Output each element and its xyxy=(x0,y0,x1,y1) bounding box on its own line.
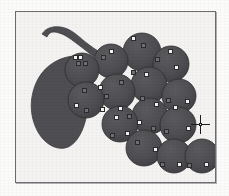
node-handle[interactable] xyxy=(177,162,182,167)
node-handle[interactable] xyxy=(160,162,165,167)
node-handle[interactable] xyxy=(119,80,124,85)
node-handle[interactable] xyxy=(125,131,130,136)
node-handle[interactable] xyxy=(98,85,103,90)
node-handle[interactable] xyxy=(144,72,149,77)
node-handle[interactable] xyxy=(155,57,160,62)
node-handle[interactable] xyxy=(164,129,169,134)
node-handle[interactable] xyxy=(185,99,190,104)
grape-bunch-artwork[interactable] xyxy=(16,12,215,182)
node-handle[interactable] xyxy=(141,43,146,48)
grape-stem-shape xyxy=(42,27,98,57)
node-handle[interactable] xyxy=(137,120,142,125)
crosshair-cursor xyxy=(191,115,210,134)
node-handle[interactable] xyxy=(100,107,105,112)
node-handle[interactable] xyxy=(153,147,158,152)
node-handle[interactable] xyxy=(127,114,132,119)
node-handle[interactable] xyxy=(166,98,171,103)
crosshair-center-dot xyxy=(199,123,202,126)
node-handle[interactable] xyxy=(82,88,87,93)
node-handle[interactable] xyxy=(173,105,178,110)
grape-berries xyxy=(65,33,215,173)
node-handle[interactable] xyxy=(131,70,136,75)
drawing-canvas[interactable] xyxy=(15,11,216,183)
node-handle[interactable] xyxy=(110,133,115,138)
node-handle[interactable] xyxy=(186,126,191,131)
node-handle[interactable] xyxy=(151,126,156,131)
node-handle[interactable] xyxy=(109,49,114,54)
node-handle[interactable] xyxy=(118,106,123,111)
node-handle[interactable] xyxy=(114,115,119,120)
node-handle[interactable] xyxy=(83,61,88,66)
node-handle[interactable] xyxy=(131,36,136,41)
node-handle[interactable] xyxy=(140,96,145,101)
node-handle[interactable] xyxy=(104,94,109,99)
node-handle[interactable] xyxy=(204,162,209,167)
node-handle[interactable] xyxy=(101,55,106,60)
node-handle[interactable] xyxy=(76,61,81,66)
node-handle[interactable] xyxy=(154,102,159,107)
node-handle[interactable] xyxy=(84,108,89,113)
node-handle[interactable] xyxy=(78,55,83,60)
app-root xyxy=(0,0,229,196)
node-handle[interactable] xyxy=(74,103,79,108)
node-handle[interactable] xyxy=(174,65,179,70)
node-handle[interactable] xyxy=(168,49,173,54)
node-handle[interactable] xyxy=(187,163,192,168)
node-handle[interactable] xyxy=(135,140,140,145)
